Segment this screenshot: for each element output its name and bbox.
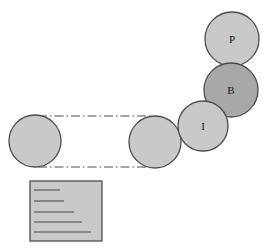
circle-shape-left[interactable] (9, 115, 61, 167)
circle-shape-i[interactable] (178, 101, 228, 151)
circle-shape-p[interactable] (205, 12, 259, 66)
node-circle-mid[interactable] (129, 116, 181, 168)
circle-chain-group: P B I (9, 12, 259, 168)
node-circle-i[interactable]: I (178, 101, 228, 151)
node-circle-p[interactable]: P (205, 12, 259, 66)
diagram-canvas: P B I (0, 0, 265, 251)
node-circle-left[interactable] (9, 115, 61, 167)
striped-rectangle-group[interactable] (30, 181, 102, 241)
circle-shape-mid[interactable] (129, 116, 181, 168)
diagram-svg: P B I (0, 0, 265, 251)
